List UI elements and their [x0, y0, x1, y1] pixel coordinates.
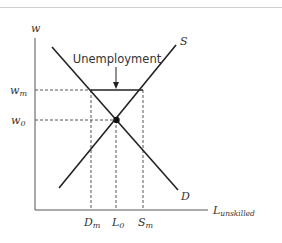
y-axis-label: w — [31, 22, 41, 35]
x-axis-label: Lunskilled — [212, 204, 255, 218]
supply-curve-label: S — [180, 35, 188, 48]
labor-market-diagram: Unemployment w S D wm w0 Dm L0 Sm Lunski… — [0, 0, 282, 243]
supply-curve — [59, 45, 176, 188]
dm-tick-label: Dm — [83, 216, 101, 230]
w0-tick-label: w0 — [11, 114, 26, 128]
unemployment-label: Unemployment — [73, 52, 162, 66]
arrow-down-icon — [113, 82, 119, 89]
equilibrium-point — [113, 117, 119, 123]
wm-tick-label: wm — [10, 84, 27, 98]
demand-curve-label: D — [180, 190, 190, 203]
l0-tick-label: L0 — [111, 216, 124, 230]
sm-tick-label: Sm — [138, 216, 154, 230]
